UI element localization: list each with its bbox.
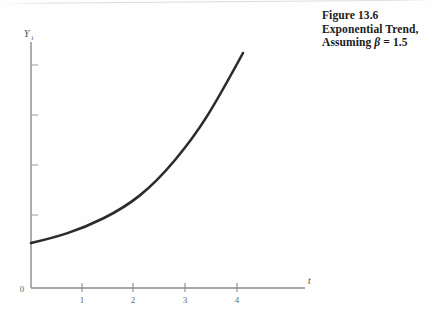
- x-tick-label: 2: [131, 295, 136, 305]
- y-axis-ticks: [31, 65, 38, 215]
- figure-page: Y t t 0 1 2 3 4 Figure 13.6 Exponential …: [0, 0, 435, 316]
- exponential-trend-chart: Y t t 0 1 2 3 4: [0, 0, 316, 316]
- caption-line-assumption: Assuming β = 1.5: [322, 36, 434, 50]
- x-tick-label: 4: [235, 295, 240, 305]
- x-tick-label: 3: [183, 295, 188, 305]
- figure-caption: Figure 13.6 Exponential Trend, Assuming …: [322, 9, 434, 50]
- caption-assuming-text: Assuming: [322, 36, 374, 48]
- caption-line-title: Figure 13.6: [322, 9, 434, 23]
- caption-beta-value: = 1.5: [380, 36, 407, 48]
- x-axis-label: t: [308, 276, 311, 286]
- x-tick-label: 1: [80, 295, 85, 305]
- caption-line-subtitle: Exponential Trend,: [322, 23, 434, 37]
- origin-label: 0: [20, 284, 25, 294]
- y-axis-label: Y: [24, 29, 31, 39]
- chart-figure: Y t t 0 1 2 3 4: [0, 0, 316, 316]
- exponential-curve: [31, 53, 243, 243]
- y-axis-label-subscript: t: [32, 34, 34, 41]
